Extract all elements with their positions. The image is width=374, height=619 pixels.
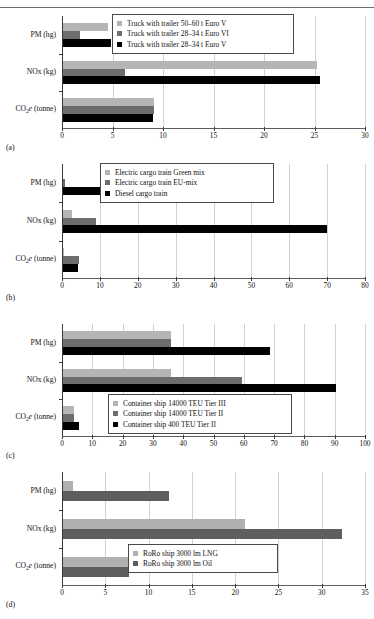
- x-axis-d: [62, 585, 365, 586]
- legend-label: RoRo ship 3000 lm Oil: [143, 560, 212, 567]
- x-tick-label: 5: [103, 588, 107, 597]
- x-tick-label: 70: [270, 439, 277, 448]
- header-rule: [0, 7, 374, 8]
- bar: [63, 23, 108, 31]
- bar: [63, 491, 169, 501]
- bar-group: PM (hg): [62, 481, 365, 502]
- legend: Container ship 14000 TEU Tier IIIContain…: [108, 394, 292, 434]
- x-tick-label: 25: [311, 131, 318, 140]
- x-tick-label: 50: [248, 281, 255, 290]
- bar: [63, 210, 72, 218]
- bar: [63, 114, 153, 122]
- bar: [63, 414, 74, 422]
- legend-label: Electric cargo train EU-mix: [115, 179, 197, 186]
- x-tick-label: 40: [179, 439, 186, 448]
- bar: [63, 225, 327, 233]
- x-tick-mark: [335, 435, 336, 439]
- x-tick-label: 25: [275, 588, 282, 597]
- y-axis-d: [62, 472, 63, 586]
- gridline: [365, 324, 366, 437]
- chart-panel-b: PM (hg)NOx (kg)CO2e (tonne) 010203040506…: [0, 160, 374, 315]
- x-tick-label: 60: [240, 439, 247, 448]
- x-tick-label: 30: [172, 281, 179, 290]
- bar: [63, 331, 171, 339]
- legend-swatch-icon: [117, 31, 122, 36]
- x-tick-mark: [251, 277, 252, 281]
- legend-swatch-icon: [113, 422, 118, 427]
- x-tick-mark: [100, 277, 101, 281]
- legend-item[interactable]: Container ship 14000 TEU Tier II: [113, 409, 285, 420]
- x-tick-mark: [62, 127, 63, 131]
- bar: [63, 106, 154, 114]
- legend-item[interactable]: Truck with trailer 28–34 t Euro V: [117, 39, 287, 50]
- x-tick-mark: [153, 435, 154, 439]
- x-tick-label: 20: [260, 131, 267, 140]
- category-label: NOx (kg): [27, 69, 56, 77]
- bar: [63, 481, 73, 491]
- x-tick-mark: [365, 277, 366, 281]
- legend-label: Electric cargo train Green mix: [115, 169, 205, 176]
- x-tick-mark: [105, 584, 106, 588]
- category-label: PM (hg): [30, 179, 56, 187]
- x-tick-label: 70: [323, 281, 330, 290]
- x-tick-label: 50: [210, 439, 217, 448]
- legend-item[interactable]: RoRo ship 3000 lm Oil: [133, 559, 271, 570]
- bar: [63, 567, 129, 577]
- legend: Electric cargo train Green mixElectric c…: [100, 163, 274, 203]
- x-tick-mark: [113, 127, 114, 131]
- category-label: PM (hg): [30, 339, 56, 347]
- legend-swatch-icon: [133, 561, 138, 566]
- x-tick-mark: [214, 127, 215, 131]
- bar-group: NOx (kg): [62, 519, 365, 540]
- bar: [63, 384, 336, 392]
- legend-item[interactable]: Truck with trailer 28–34 t Euro VI: [117, 29, 287, 40]
- x-tick-mark: [327, 277, 328, 281]
- x-tick-mark: [315, 127, 316, 131]
- x-tick-mark: [235, 584, 236, 588]
- x-tick-mark: [123, 435, 124, 439]
- x-tick-label: 10: [159, 131, 166, 140]
- x-tick-label: 60: [286, 281, 293, 290]
- gridline: [365, 164, 366, 279]
- gridline: [365, 472, 366, 586]
- legend-item[interactable]: Container ship 400 TEU Tier II: [113, 419, 285, 430]
- bar: [63, 339, 171, 347]
- legend-swatch-icon: [105, 191, 110, 196]
- legend-item[interactable]: Truck with trailer 50–60 t Euro V: [117, 18, 287, 29]
- x-tick-label: 80: [361, 281, 368, 290]
- bar: [63, 61, 317, 69]
- category-label: PM (hg): [30, 31, 56, 39]
- x-tick-mark: [62, 435, 63, 439]
- category-label: CO2e (tonne): [15, 105, 56, 115]
- legend-item[interactable]: RoRo ship 3000 lm LNG: [133, 548, 271, 559]
- legend-item[interactable]: Container ship 14000 TEU Tier III: [113, 398, 285, 409]
- x-tick-label: 0: [60, 588, 64, 597]
- bar: [63, 347, 270, 355]
- category-label: CO2e (tonne): [15, 413, 56, 423]
- legend-item[interactable]: Diesel cargo train: [105, 188, 267, 199]
- legend-swatch-icon: [105, 180, 110, 185]
- legend-swatch-icon: [133, 551, 138, 556]
- legend-item[interactable]: Electric cargo train Green mix: [105, 167, 267, 178]
- x-tick-label: 10: [145, 588, 152, 597]
- x-tick-mark: [322, 584, 323, 588]
- x-tick-mark: [92, 435, 93, 439]
- x-tick-label: 20: [119, 439, 126, 448]
- bar: [63, 519, 245, 529]
- x-tick-mark: [214, 277, 215, 281]
- x-tick-mark: [264, 127, 265, 131]
- legend-swatch-icon: [113, 401, 118, 406]
- panel-tag-b: (b): [6, 293, 15, 302]
- x-tick-label: 15: [210, 131, 217, 140]
- x-tick-label: 0: [60, 131, 64, 140]
- y-axis-b: [62, 164, 63, 279]
- y-axis-c: [62, 324, 63, 437]
- bar: [63, 76, 320, 84]
- x-tick-mark: [138, 277, 139, 281]
- legend-item[interactable]: Electric cargo train EU-mix: [105, 178, 267, 189]
- legend-label: Truck with trailer 28–34 t Euro V: [127, 41, 226, 48]
- bar: [63, 422, 79, 430]
- legend-label: Container ship 14000 TEU Tier II: [123, 410, 223, 417]
- x-tick-label: 10: [89, 439, 96, 448]
- x-tick-label: 15: [188, 588, 195, 597]
